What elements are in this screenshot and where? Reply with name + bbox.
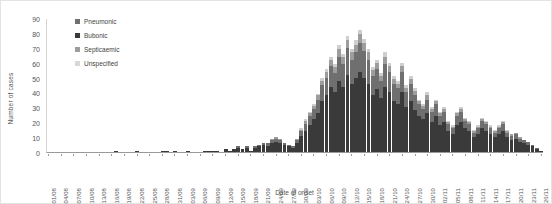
x-axis-tick-mark (263, 154, 264, 156)
x-axis-tick-mark (225, 154, 226, 156)
chart-legend: PneumonicBubonicSepticaemicUnspecified (75, 14, 119, 70)
x-axis-tick-mark (48, 154, 49, 156)
legend-swatch-unspecified-icon (75, 61, 80, 66)
x-axis-tick-mark (377, 154, 378, 156)
x-axis-tick-mark (541, 154, 542, 156)
x-axis-tick-mark (440, 154, 441, 156)
y-axis-tick-20: 20 (32, 120, 40, 127)
legend-item-septicaemic[interactable]: Septicaemic (75, 42, 119, 56)
x-axis-tick-mark (326, 154, 327, 156)
x-axis-tick-mark (61, 154, 62, 156)
y-axis-tick-labels: 0102030405060708090 (17, 15, 43, 159)
x-axis-tick-mark (301, 154, 302, 156)
x-axis-tick-mark (276, 154, 277, 156)
x-axis-tick-mark (351, 154, 352, 156)
epidemic-curve-chart: Number of cases 0102030405060708090 01/0… (0, 0, 552, 204)
x-axis-tick-mark (478, 154, 479, 156)
y-axis-tick-80: 80 (32, 30, 40, 37)
legend-label: Unspecified (84, 60, 118, 67)
x-axis-tick-labels: 01/0804/0807/0810/0813/0816/0819/0822/08… (46, 154, 543, 190)
x-axis-tick-mark (174, 154, 175, 156)
x-axis-tick-mark (86, 154, 87, 156)
x-axis-tick-mark (250, 154, 251, 156)
y-axis-tick-50: 50 (32, 75, 40, 82)
y-axis-tick-10: 10 (32, 135, 40, 142)
legend-swatch-bubonic-icon (75, 33, 80, 38)
x-axis-tick-mark (99, 154, 100, 156)
x-axis-tick-mark (490, 154, 491, 156)
y-axis-tick-40: 40 (32, 90, 40, 97)
x-axis-title: Date of onset (46, 189, 543, 196)
plot-area (46, 19, 543, 153)
y-axis-tick-90: 90 (32, 16, 40, 23)
x-axis-tick-mark (516, 154, 517, 156)
x-axis-tick-mark (452, 154, 453, 156)
x-axis-tick-mark (465, 154, 466, 156)
y-axis-title: Number of cases (3, 53, 17, 143)
x-axis-tick-mark (402, 154, 403, 156)
x-axis-tick-mark (137, 154, 138, 156)
x-axis-tick-mark (288, 154, 289, 156)
y-axis-tick-0: 0 (36, 150, 40, 157)
legend-label: Bubonic (84, 32, 108, 39)
legend-item-unspecified[interactable]: Unspecified (75, 56, 119, 70)
legend-swatch-septicaemic-icon (75, 47, 80, 52)
x-axis-tick-mark (339, 154, 340, 156)
x-axis-tick-26-11: 26/11 (543, 188, 549, 203)
x-axis-tick-mark (212, 154, 213, 156)
legend-item-bubonic[interactable]: Bubonic (75, 28, 119, 42)
x-axis-tick-mark (313, 154, 314, 156)
x-axis-tick-mark (415, 154, 416, 156)
x-axis-tick-mark (238, 154, 239, 156)
y-axis-title-text: Number of cases (7, 72, 14, 124)
bar-26-11 (539, 19, 543, 152)
x-axis-tick-mark (149, 154, 150, 156)
x-axis-tick-mark (427, 154, 428, 156)
legend-label: Pneumonic (84, 18, 117, 25)
x-axis-tick-mark (124, 154, 125, 156)
x-axis-tick-mark (111, 154, 112, 156)
legend-swatch-pneumonic-icon (75, 19, 80, 24)
legend-label: Septicaemic (84, 46, 119, 53)
x-axis-tick-mark (187, 154, 188, 156)
bar-segment-bubonic (539, 151, 543, 152)
x-axis-tick-mark (364, 154, 365, 156)
x-axis-tick-mark (528, 154, 529, 156)
legend-item-pneumonic[interactable]: Pneumonic (75, 14, 119, 28)
y-axis-tick-30: 30 (32, 105, 40, 112)
x-axis-tick-mark (200, 154, 201, 156)
x-axis-tick-mark (389, 154, 390, 156)
y-axis-tick-70: 70 (32, 45, 40, 52)
y-axis-tick-60: 60 (32, 60, 40, 67)
x-axis-tick-mark (503, 154, 504, 156)
x-axis-tick-mark (162, 154, 163, 156)
x-axis-tick-mark (73, 154, 74, 156)
bar-series-container (47, 19, 543, 152)
